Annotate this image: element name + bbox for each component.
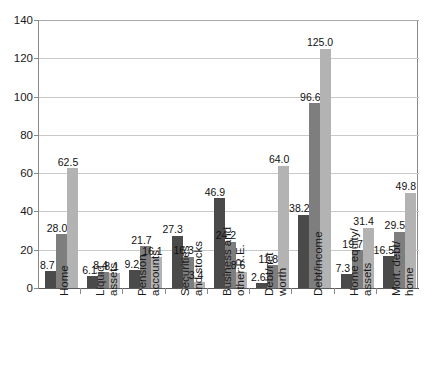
x-axis-label-line: Debt/income [312,231,325,296]
bar-group: 6.18.48.1 [81,20,123,288]
x-axis-group-tick [80,288,81,294]
x-axis-category-label: Debt/income [312,231,325,296]
bar-group-bars: 6.18.48.1 [87,20,120,288]
x-axis-group-tick [207,288,208,294]
x-axis-label-line: Home equity/ [348,228,361,296]
bar-group-bars: 8.728.062.5 [45,20,78,288]
bar-value-label: 125.0 [307,37,333,48]
x-axis-label-line: Mort. debt/ [390,241,403,296]
bar-value-label: 64.0 [269,154,289,165]
bar: 8.7 [45,271,56,288]
x-axis-group-tick [334,288,335,294]
x-axis-group-tick [291,288,292,294]
bar-group: 9.221.716.1 [123,20,165,288]
bar: 38.2 [298,215,309,288]
x-axis-category-label: Liquidassets [94,263,119,296]
bar-group: 2.611.864.0 [250,20,292,288]
x-axis-category-label: Business andother R.E. [221,227,246,296]
x-axis-category-label: Home [58,265,71,296]
x-axis-group-tick [165,288,166,294]
x-axis-label-line: accounts [149,250,162,296]
bar-value-label: 62.5 [58,157,78,168]
y-axis-tick-label: 0 [27,282,33,294]
y-axis-tick-label: 140 [14,14,33,26]
x-axis-category-label: Home equity/assets [348,228,373,296]
bar-group: 8.728.062.5 [39,20,81,288]
x-axis-label-line: Pension [136,250,149,296]
x-axis-label-line: and stocks [191,241,204,296]
bar-value-label: 31.4 [353,216,373,227]
bar-value-label: 38.2 [289,203,309,214]
bar-group-bars: 9.221.716.1 [129,20,162,288]
y-axis-tick-label: 60 [20,167,33,179]
bar-value-label: 96.6 [300,92,320,103]
bar-value-label: 29.5 [385,220,405,231]
y-axis-tick-mark [34,288,39,289]
x-axis-label-line: other R.E. [233,227,246,296]
bar-group-bars: 2.611.864.0 [256,20,289,288]
y-axis-tick-label: 40 [20,205,33,217]
x-axis-label-line: home [402,241,415,296]
x-axis-label-line: worth [276,253,289,296]
x-axis-group-tick [249,288,250,294]
x-axis-category-label: Pensionaccounts [136,250,161,296]
x-axis-label-line: Debt/net [263,253,276,296]
bar-value-label: 8.7 [40,260,55,271]
y-axis-tick-label: 20 [20,244,33,256]
bar-value-label: 28.0 [47,223,67,234]
x-axis-label-line: Securities [179,241,192,296]
x-axis-label-line: Home [58,265,71,296]
bar-value-label: 49.8 [396,181,416,192]
x-axis-label-line: assets [360,228,373,296]
y-axis-tick-label: 80 [20,129,33,141]
x-axis-label-line: Business and [221,227,234,296]
bar-value-label: 46.9 [205,187,225,198]
x-axis-group-tick [122,288,123,294]
x-axis-group-tick [376,288,377,294]
x-axis-category-label: Securitiesand stocks [179,241,204,296]
x-axis-category-label: Mort. debt/home [390,241,415,296]
y-axis-tick-label: 120 [14,52,33,64]
bar-chart: 0204060801001201408.728.062.56.18.48.19.… [0,0,427,375]
x-axis-category-label: Debt/networth [263,253,288,296]
x-axis-label-line: Liquid [94,263,107,296]
bar-value-label: 27.3 [162,224,182,235]
y-axis-tick-label: 100 [14,91,33,103]
x-axis-label-line: assets [107,263,120,296]
